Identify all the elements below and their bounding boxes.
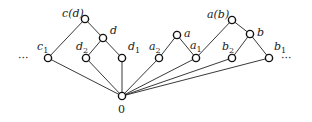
node-d: [99, 34, 106, 41]
edge-a-a2: [159, 35, 177, 58]
label-cd: c(d): [62, 7, 84, 20]
label-a2: a2: [149, 40, 161, 55]
node-b: [246, 30, 253, 37]
label-d2: d2: [76, 40, 88, 55]
label-d: d: [110, 24, 117, 37]
label-ab: a(b): [207, 8, 229, 21]
node-b1: [265, 54, 272, 61]
node-d2: [82, 54, 89, 61]
edge-b-b2: [232, 34, 250, 58]
ellipsis-left: ···: [18, 52, 29, 65]
edge-a1-zero: [122, 58, 196, 96]
label-b: b: [257, 26, 264, 39]
node-a1: [192, 54, 199, 61]
edge-b1-zero: [122, 58, 269, 96]
label-a1: a1: [190, 39, 202, 54]
label-c1: c1: [37, 40, 48, 55]
edge-d2-zero: [86, 58, 122, 96]
lattice-diagram: c(d)dc1d2d1a2aa1a(b)bb2b10 ··· ···: [0, 0, 312, 122]
node-a2: [155, 54, 162, 61]
node-d1: [118, 54, 125, 61]
label-zero: 0: [118, 103, 125, 116]
node-zero: [118, 92, 125, 99]
node-b2: [228, 54, 235, 61]
edge-c1-zero: [48, 58, 122, 96]
edge-b2-zero: [122, 58, 232, 96]
label-b2: b2: [222, 40, 234, 55]
node-c1: [44, 54, 51, 61]
labels: c(d)dc1d2d1a2aa1a(b)bb2b10: [37, 7, 286, 116]
label-d1: d1: [128, 40, 140, 55]
edge-a2-zero: [122, 58, 159, 96]
ellipsis-right: ···: [281, 52, 292, 65]
node-a: [173, 31, 180, 38]
node-ab: [228, 16, 235, 23]
